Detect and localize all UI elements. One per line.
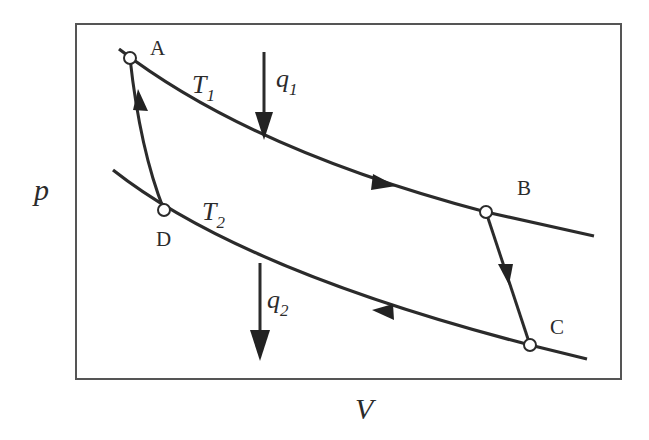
heat-q2-arrow-icon xyxy=(250,330,270,361)
heat-q1-arrow-icon xyxy=(255,112,273,140)
state-label-d: D xyxy=(156,227,171,251)
isotherm-t2-label: T2 xyxy=(202,197,225,232)
state-point-d xyxy=(158,204,170,216)
arrow-bc-icon xyxy=(498,264,513,285)
state-point-b xyxy=(480,206,492,218)
carnot-pv-diagram: A B C D T1 T2 q1 q2 p V xyxy=(0,0,649,440)
state-label-a: A xyxy=(150,36,166,60)
state-point-c xyxy=(524,339,536,351)
state-label-b: B xyxy=(517,176,531,200)
heat-q1-label: q1 xyxy=(276,64,298,99)
isotherm-t2-curve xyxy=(113,170,587,359)
arrow-ab-icon xyxy=(371,174,396,190)
isotherm-t1-curve xyxy=(119,49,594,236)
state-point-a xyxy=(124,52,136,64)
x-axis-label: V xyxy=(355,392,377,425)
y-axis-label: p xyxy=(32,173,49,206)
arrow-cd-icon xyxy=(372,304,394,320)
state-label-c: C xyxy=(550,315,564,339)
heat-q2-label: q2 xyxy=(267,285,289,320)
